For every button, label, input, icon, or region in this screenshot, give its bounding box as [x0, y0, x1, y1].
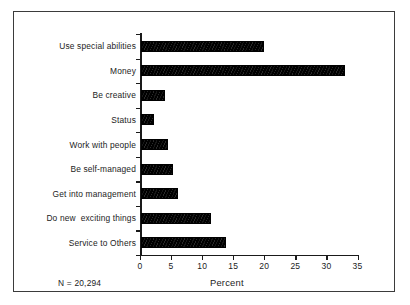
bar	[141, 139, 168, 150]
chart-figure: Use special abilitiesMoneyBe creativeSta…	[0, 0, 410, 305]
plot-area: 05101520253035	[140, 34, 361, 255]
bar	[141, 41, 264, 52]
y-axis-tick	[136, 206, 141, 207]
y-axis-tick	[136, 181, 141, 182]
category-label: Money	[110, 66, 136, 76]
category-label: Be creative	[92, 90, 136, 100]
category-label: Status	[111, 115, 136, 125]
category-label: Get into management	[53, 189, 136, 199]
y-axis-tick	[136, 157, 141, 158]
bar	[141, 65, 345, 76]
x-axis-tick-label: 35	[346, 261, 370, 271]
x-axis-tick-label: 5	[159, 261, 183, 271]
y-axis-tick	[136, 108, 141, 109]
bar	[141, 213, 211, 224]
x-axis-tick	[140, 256, 141, 261]
x-axis-tick	[295, 256, 296, 261]
x-axis-tick-label: 30	[314, 261, 338, 271]
category-axis-labels: Use special abilitiesMoneyBe creativeSta…	[28, 34, 136, 255]
x-axis-tick-label: 15	[221, 261, 245, 271]
x-axis-tick	[326, 256, 327, 261]
bar	[141, 188, 178, 199]
y-axis-tick	[136, 230, 141, 231]
category-label: Use special abilities	[59, 41, 136, 51]
x-axis-tick-label: 0	[128, 261, 152, 271]
x-axis-tick-label: 20	[252, 261, 276, 271]
y-axis-tick	[136, 34, 141, 35]
category-label: Work with people	[70, 140, 136, 150]
category-label: Service to Others	[69, 238, 136, 248]
x-axis-tick	[264, 256, 265, 261]
x-axis-tick	[171, 256, 172, 261]
category-label: Do new exciting things	[46, 213, 136, 223]
x-axis-tick-label: 25	[283, 261, 307, 271]
x-axis-tick	[202, 256, 203, 261]
category-label: Be self-managed	[70, 164, 136, 174]
figure-frame: Use special abilitiesMoneyBe creativeSta…	[13, 11, 395, 292]
sample-size-note: N = 20,294	[58, 278, 101, 288]
y-axis-tick	[136, 132, 141, 133]
y-axis-tick	[136, 83, 141, 84]
bar	[141, 164, 173, 175]
bar	[141, 90, 165, 101]
x-axis-tick	[233, 256, 234, 261]
bar	[141, 237, 226, 248]
x-axis-title: Percent	[210, 277, 244, 288]
x-axis-tick-label: 10	[190, 261, 214, 271]
bar	[141, 114, 154, 125]
y-axis-tick	[136, 59, 141, 60]
x-axis-tick	[358, 256, 359, 261]
